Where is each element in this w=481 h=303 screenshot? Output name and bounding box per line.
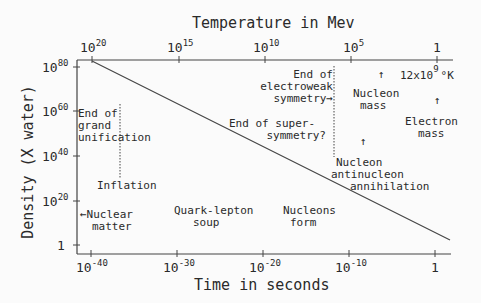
svg-text:1015: 1015 [167, 38, 194, 55]
svg-text:soup: soup [193, 216, 220, 229]
y-axis-title: Density (X water) [19, 85, 37, 239]
x2-axis-title: Temperature in Mev [192, 14, 355, 32]
arrow-up-icon: ↑ [360, 135, 367, 148]
arrow-up-icon: ↑ [434, 94, 441, 107]
svg-text:1060: 1060 [42, 102, 69, 119]
annotation-annihilation: ↑ Nucleon antinucleon annihilation [331, 135, 429, 193]
annotation-inflation: Inflation [97, 179, 157, 192]
svg-text:mass: mass [360, 99, 387, 112]
svg-text:symmetry?: symmetry? [266, 129, 326, 142]
annotation-nucleon-mass: ↑ Nucleon mass [353, 68, 399, 112]
svg-text:1: 1 [57, 238, 65, 253]
svg-text:10-30: 10-30 [163, 258, 195, 275]
annotation-nucleons-form: Nucleons form [283, 204, 336, 229]
svg-text:symmetry→: symmetry→ [273, 92, 333, 105]
x-axis-title: Time in seconds [194, 276, 329, 294]
annotation-nuclear-matter: ←Nuclear matter [80, 208, 133, 233]
svg-text:1010: 1010 [253, 38, 280, 55]
svg-text:mass: mass [418, 127, 445, 140]
annotation-electron-mass: ↑ Electron mass [405, 94, 458, 140]
svg-text:1020: 1020 [42, 192, 69, 209]
svg-text:matter: matter [92, 220, 132, 233]
svg-text:10-20: 10-20 [249, 258, 281, 275]
annotation-quark-lepton: Quark-lepton soup [174, 204, 253, 229]
annotation-supersymmetry: End of super- symmetry? [229, 117, 326, 142]
svg-text:10-40: 10-40 [76, 258, 108, 275]
svg-text:10-10: 10-10 [335, 258, 367, 275]
annotation-electroweak: End of electroweak symmetry→ [260, 68, 333, 105]
x-tick-labels: 10-40 10-30 10-20 10-10 1 [76, 258, 439, 275]
annotation-grand-unification: End of grand unification [78, 107, 151, 144]
arrow-up-icon: ↑ [378, 68, 385, 81]
y-tick-labels: 1080 1060 1040 1020 1 [42, 58, 69, 253]
svg-text:unification: unification [78, 131, 151, 144]
svg-text:1: 1 [433, 40, 441, 55]
x2-tick-labels: 1020 1015 1010 105 1 [80, 38, 441, 55]
chart: 10-40 10-30 10-20 10-10 1 1020 1015 1010… [0, 0, 481, 303]
svg-text:105: 105 [343, 38, 364, 55]
annotation-kelvin: 12x109°K [400, 64, 454, 82]
svg-text:1: 1 [431, 260, 439, 275]
svg-text:1080: 1080 [42, 58, 69, 75]
svg-text:form: form [290, 216, 317, 229]
svg-text:annihilation: annihilation [350, 180, 429, 193]
svg-text:1040: 1040 [42, 147, 69, 164]
svg-text:1020: 1020 [80, 38, 107, 55]
